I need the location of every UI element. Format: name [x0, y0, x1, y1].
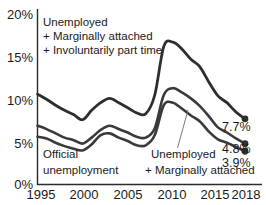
- annotation-line: unemployment: [43, 164, 119, 176]
- annotation-line: Unemployed: [43, 16, 108, 28]
- x-tick-label: 2015: [201, 187, 230, 202]
- x-tick-label: 1995: [27, 187, 56, 202]
- y-tick-label: 5%: [14, 136, 33, 151]
- annotation-line: Unemployed: [151, 148, 216, 160]
- annotation-leader-line: [178, 110, 189, 148]
- x-axis-tick-labels: 1995 2000 2005 2010 2015 2018: [27, 187, 261, 202]
- annotation-official-unemployment: Official unemployment: [43, 148, 119, 176]
- y-tick-label: 10%: [7, 93, 33, 108]
- chart-canvas: 20% 15% 10% 5% 0% 7.7% 4.8% 3.9% Unemplo…: [0, 0, 266, 205]
- annotation-line: Official: [43, 148, 78, 160]
- x-tick-label: 2018: [232, 187, 261, 202]
- x-tick-label: 2000: [70, 187, 99, 202]
- annotation-line: + Marginally attached: [145, 164, 255, 176]
- end-label-u6: 7.7%: [222, 120, 251, 134]
- unemployment-rate-chart: 20% 15% 10% 5% 0% 7.7% 4.8% 3.9% Unemplo…: [0, 0, 266, 205]
- y-tick-label: 20%: [7, 7, 33, 22]
- x-tick-label: 2005: [114, 187, 143, 202]
- annotation-line: + Involuntarily part time: [43, 44, 162, 56]
- x-tick-label: 2010: [158, 187, 187, 202]
- annotation-u6: Unemployed + Marginally attached + Invol…: [43, 16, 162, 56]
- end-label-u5: 4.8%: [222, 142, 251, 156]
- annotation-line: + Marginally attached: [43, 30, 153, 42]
- y-axis-tick-labels: 20% 15% 10% 5% 0%: [7, 7, 33, 192]
- y-tick-label: 15%: [7, 50, 33, 65]
- series-line-u3: [38, 102, 246, 152]
